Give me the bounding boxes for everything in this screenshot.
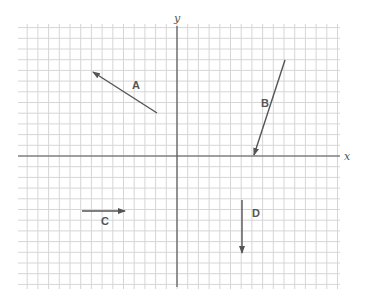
vector-b-arrow [254, 60, 285, 155]
vector-c: C [82, 211, 125, 227]
vector-d: D [242, 200, 260, 253]
vector-b: B [254, 60, 285, 155]
x-axis-label: x [344, 150, 351, 163]
axes: x y [18, 12, 351, 287]
y-axis-label: y [173, 12, 181, 25]
vector-c-label: C [101, 215, 109, 227]
coordinate-diagram: x y ABCD [0, 0, 369, 294]
vector-b-label: B [261, 97, 269, 109]
vector-d-label: D [252, 207, 260, 219]
vector-a-label: A [132, 79, 140, 91]
